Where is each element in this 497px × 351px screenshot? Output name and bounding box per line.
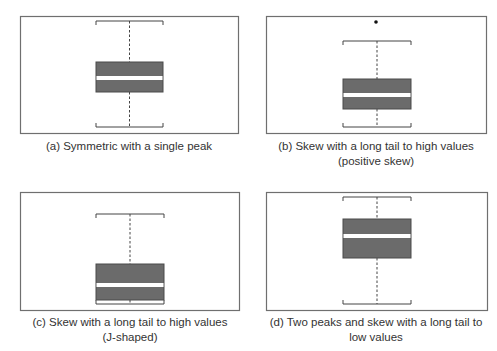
caption-a-line1: (a) Symmetric with a single peak (20, 139, 238, 154)
median-line (97, 283, 164, 287)
caption-a: (a) Symmetric with a single peak (20, 139, 238, 154)
caption-c-line1: (c) Skew with a long tail to high values (10, 315, 250, 330)
caption-d-line2: low values (256, 330, 496, 345)
caption-b-line1: (b) Skew with a long tail to high values (256, 139, 496, 154)
caption-b: (b) Skew with a long tail to high values… (256, 139, 496, 169)
median-line (97, 76, 163, 80)
panel-d (267, 193, 488, 311)
caption-c: (c) Skew with a long tail to high values… (10, 315, 250, 345)
caption-b-line2: (positive skew) (256, 154, 496, 169)
caption-d-line1: (d) Two peaks and skew with a long tail … (256, 315, 496, 330)
panel-a (21, 17, 239, 134)
iqr-box (96, 264, 164, 300)
panel-b (267, 17, 487, 134)
panel-c (21, 193, 240, 311)
caption-c-line2: (J-shaped) (10, 330, 250, 345)
median-line (344, 93, 411, 97)
outlier-point (374, 20, 378, 24)
boxplot-figure (0, 0, 497, 351)
caption-d: (d) Two peaks and skew with a long tail … (256, 315, 496, 345)
median-line (344, 234, 411, 238)
iqr-box (343, 219, 411, 258)
